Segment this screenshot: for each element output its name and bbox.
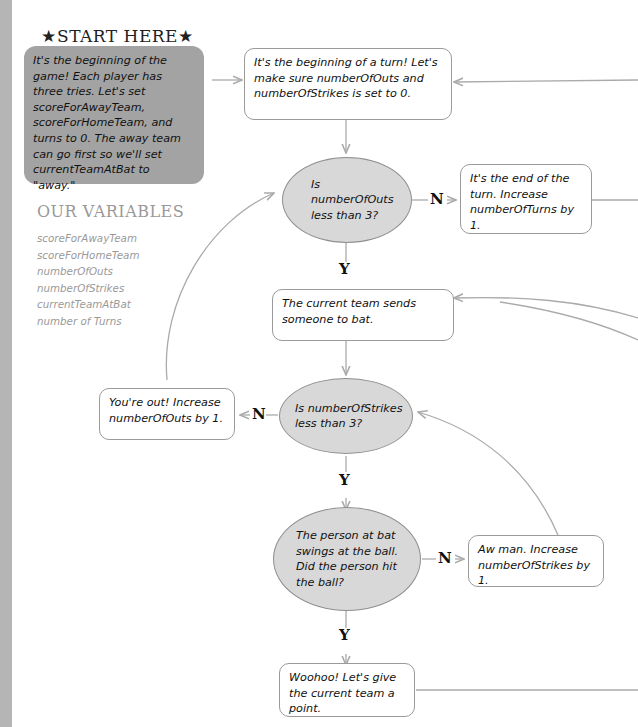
strike-node: Aw man. Increase numberOfStrikes by 1. [468,535,604,587]
variable-item: currentTeamAtBat [37,296,139,313]
variable-item: number of Turns [37,313,139,330]
out-node: You're out! Increase numberOfOuts by 1. [99,388,235,440]
send-batter-node: The current team sends someone to bat. [272,289,454,341]
point-node: Woohoo! Let's give the current team a po… [279,663,415,717]
end-turn-node: It's the end of the turn. Increase numbe… [460,164,592,234]
yes-label: Y [339,626,350,644]
yes-label: Y [339,471,350,489]
decision-text: Is numberOfOuts less than 3? [311,177,399,224]
variable-item: scoreForAwayTeam [37,230,139,247]
decision-text: Is numberOfStrikes less than 3? [295,401,407,432]
variable-item: numberOfOuts [37,263,139,280]
start-node: It's the beginning of the game! Each pla… [24,46,204,184]
no-label: N [430,190,444,208]
variables-heading: OUR VARIABLES [37,202,184,221]
variable-item: numberOfStrikes [37,280,139,297]
variable-item: scoreForHomeTeam [37,247,139,264]
start-here-heading: ★START HERE★ [30,26,205,46]
strikes-check-decision: Is numberOfStrikes less than 3? [279,378,413,454]
decision-text: The person at bat swings at the ball. Di… [296,528,408,590]
no-label: N [252,405,266,423]
yes-label: Y [339,260,350,278]
no-label: N [438,549,452,567]
begin-turn-node: It's the beginning of a turn! Let's make… [244,48,452,120]
outs-check-decision: Is numberOfOuts less than 3? [282,157,412,243]
variables-list: scoreForAwayTeam scoreForHomeTeam number… [37,230,139,329]
swing-check-decision: The person at bat swings at the ball. Di… [273,507,421,611]
